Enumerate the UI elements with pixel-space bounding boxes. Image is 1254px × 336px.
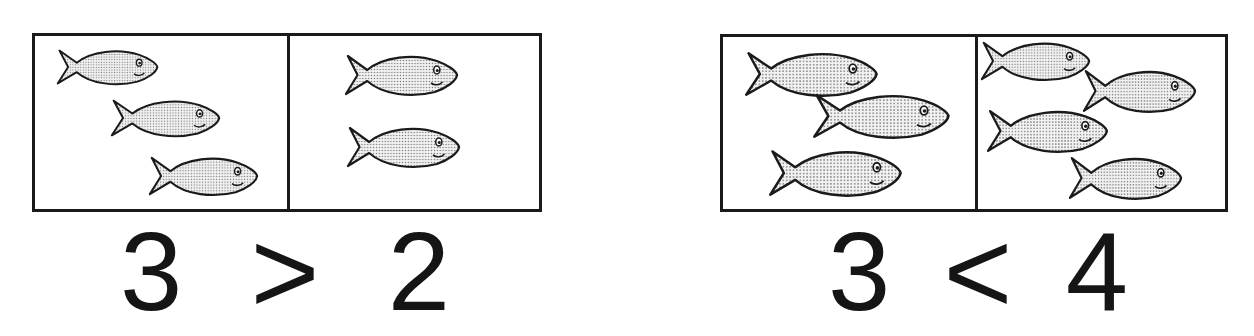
fish-icon [1068,155,1184,201]
fish-icon [346,125,462,169]
comparison-1-right-number: 2 [388,216,450,328]
fish-icon [148,155,260,197]
fish-icon [744,50,880,98]
fish-icon [344,53,460,97]
greater-than-symbol: > [251,213,320,331]
fish-icon [56,48,160,86]
fish-icon [812,92,952,140]
comparison-2-left-number: 3 [828,216,890,328]
comparison-2-right-number: 4 [1066,216,1128,328]
comparison-1-expression: 3 > 2 [120,222,450,322]
comparison-2-expression: 3 < 4 [828,222,1128,322]
less-than-symbol: < [944,213,1013,331]
fish-icon [768,148,904,198]
comparison-1-left-number: 3 [120,216,182,328]
fish-icon [110,98,222,138]
fish-icon [980,40,1092,82]
fish-icon [986,108,1110,154]
